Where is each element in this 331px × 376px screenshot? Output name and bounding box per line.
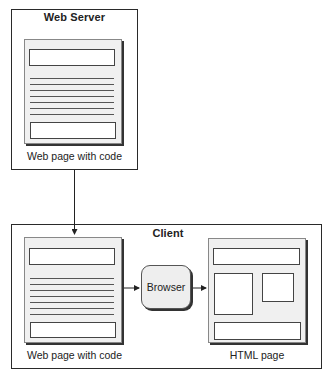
connectors: [0, 0, 331, 376]
